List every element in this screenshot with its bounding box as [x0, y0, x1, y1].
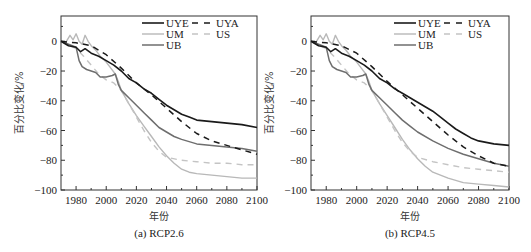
series-line-us	[311, 41, 509, 172]
y-tick-label: −80	[40, 154, 58, 166]
chart-panel-rcp26: 0−20−40−60−80−10019802000202020402060208…	[13, 16, 269, 240]
y-tick-label: −40	[290, 95, 308, 107]
legend-label-ub: UB	[418, 39, 433, 51]
legend: UYEUYAUMUSUB	[142, 17, 239, 51]
x-tick-label: 2000	[346, 194, 369, 206]
panel-caption: (a) RCP2.6	[134, 227, 184, 240]
series-line-ub	[311, 41, 509, 166]
x-tick-label: 2040	[407, 194, 430, 206]
y-tick-label: −60	[290, 125, 308, 137]
x-axis-label: 年份	[149, 210, 169, 222]
series-line-uya	[61, 41, 257, 154]
x-tick-label: 2100	[246, 194, 269, 206]
x-tick-label: 1980	[315, 194, 338, 206]
legend-label-ub: UB	[166, 39, 181, 51]
x-tick-label: 2080	[468, 194, 491, 206]
panel-caption: (b) RCP4.5	[385, 227, 436, 240]
chart-panel-rcp45: 0−20−40−60−80−10019802000202020402060208…	[263, 16, 521, 240]
y-tick-label: −20	[290, 65, 308, 77]
y-axis-label: 百分比变化/%	[13, 72, 25, 135]
legend-label-us: US	[216, 28, 230, 40]
plot-area: 0−20−40−60−80−10019802000202020402060208…	[34, 16, 268, 206]
x-tick-label: 2020	[125, 194, 148, 206]
x-tick-label: 1980	[65, 194, 88, 206]
x-tick-label: 2020	[376, 194, 399, 206]
legend-label-us: US	[468, 28, 482, 40]
y-tick-label: −40	[40, 95, 58, 107]
y-tick-label: −20	[40, 65, 58, 77]
series-line-uye	[311, 41, 509, 145]
y-tick-label: −100	[284, 184, 307, 196]
x-tick-label: 2100	[498, 194, 521, 206]
y-tick-label: 0	[52, 35, 58, 47]
y-axis-label: 百分比变化/%	[263, 72, 275, 135]
series-line-ub	[61, 41, 257, 151]
y-tick-label: −100	[34, 184, 57, 196]
x-tick-label: 2060	[437, 194, 460, 206]
x-tick-label: 2000	[95, 194, 118, 206]
x-tick-label: 2080	[216, 194, 239, 206]
series-line-uye	[61, 41, 257, 127]
series-line-uya	[311, 41, 509, 166]
series-line-um	[311, 34, 509, 187]
x-axis-label: 年份	[400, 210, 420, 222]
y-tick-label: −60	[40, 125, 58, 137]
axes-frame	[311, 16, 509, 190]
series-line-um	[61, 34, 257, 178]
plot-area: 0−20−40−60−80−10019802000202020402060208…	[284, 16, 520, 206]
x-tick-label: 2060	[186, 194, 209, 206]
legend: UYEUYAUMUSUB	[394, 17, 491, 51]
y-tick-label: −80	[290, 154, 308, 166]
x-tick-label: 2040	[156, 194, 179, 206]
figure: 0−20−40−60−80−10019802000202020402060208…	[0, 0, 531, 252]
y-tick-label: 0	[302, 35, 308, 47]
